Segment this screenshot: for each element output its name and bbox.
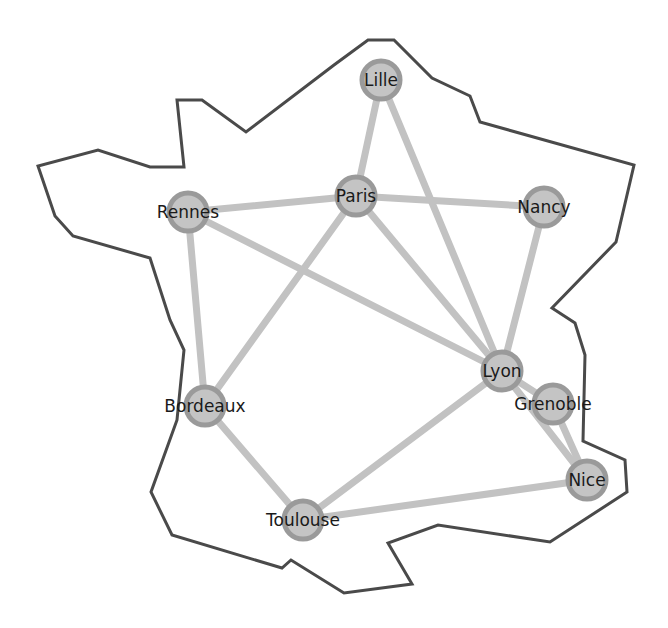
node-toulouse: Toulouse bbox=[265, 501, 340, 539]
edge-rennes-lyon bbox=[188, 212, 502, 371]
node-label: Toulouse bbox=[265, 510, 340, 530]
node-label: Paris bbox=[336, 186, 377, 206]
node-label: Lyon bbox=[482, 361, 521, 381]
node-nice: Nice bbox=[568, 461, 606, 499]
node-label: Nice bbox=[568, 470, 605, 490]
edge-paris-nancy bbox=[356, 196, 544, 207]
edge-paris-lyon bbox=[356, 196, 502, 371]
france-city-graph: LilleParisNancyRennesLyonGrenobleBordeau… bbox=[0, 0, 668, 628]
node-paris: Paris bbox=[336, 177, 377, 215]
node-nancy: Nancy bbox=[517, 188, 570, 226]
edge-rennes-bordeaux bbox=[188, 212, 205, 406]
nodes-layer: LilleParisNancyRennesLyonGrenobleBordeau… bbox=[157, 61, 606, 539]
node-grenoble: Grenoble bbox=[514, 385, 591, 423]
node-lyon: Lyon bbox=[482, 352, 521, 390]
node-lille: Lille bbox=[362, 61, 400, 99]
edges-layer bbox=[188, 80, 587, 520]
node-label: Grenoble bbox=[514, 394, 591, 414]
edge-bordeaux-toulouse bbox=[205, 406, 303, 520]
node-label: Bordeaux bbox=[164, 396, 245, 416]
node-label: Lille bbox=[364, 70, 398, 90]
edge-paris-bordeaux bbox=[205, 196, 356, 406]
node-label: Rennes bbox=[157, 202, 220, 222]
edge-nancy-lyon bbox=[502, 207, 544, 371]
node-label: Nancy bbox=[517, 197, 570, 217]
